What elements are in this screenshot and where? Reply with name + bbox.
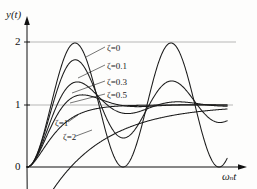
x-axis-label: ωnt bbox=[222, 171, 236, 182]
curve-label-zeta-2: ζ=2 bbox=[63, 133, 76, 142]
curve-label-zeta-1: ζ=1 bbox=[55, 119, 68, 128]
curve-label-zeta-0p5: ζ=0.5 bbox=[107, 91, 127, 100]
ytick-label-1: 1 bbox=[15, 99, 21, 110]
x-axis-label-t: t bbox=[233, 170, 236, 182]
ytick-label-2: 2 bbox=[15, 36, 21, 47]
y-axis-arrow-icon bbox=[24, 16, 30, 25]
y-axis-label: y(t) bbox=[6, 9, 21, 20]
ytick-label-0: 0 bbox=[15, 161, 21, 172]
curve-label-zeta-0p1: ζ=0.1 bbox=[107, 62, 127, 71]
curve-label-zeta-0p3: ζ=0.3 bbox=[107, 78, 127, 87]
x-axis-label-omega: ω bbox=[222, 170, 230, 182]
x-axis-arrow-icon bbox=[238, 164, 247, 170]
curve-label-zeta-0: ζ=0 bbox=[107, 44, 120, 53]
y-axis-label-text: y(t) bbox=[6, 8, 21, 20]
step-response-chart bbox=[0, 0, 257, 189]
